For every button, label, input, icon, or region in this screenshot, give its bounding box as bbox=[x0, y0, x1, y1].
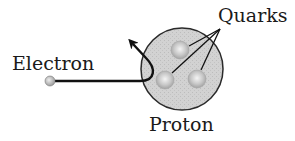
electron-label: Electron bbox=[12, 52, 94, 74]
electron-proton-scattering-diagram: Electron Quarks Proton bbox=[0, 0, 295, 141]
electron-sphere bbox=[45, 76, 55, 86]
quark-bottom-right bbox=[188, 70, 206, 88]
quark-bottom-left bbox=[156, 71, 174, 89]
proton-label: Proton bbox=[149, 113, 214, 135]
quark-top bbox=[171, 41, 189, 59]
quarks-label: Quarks bbox=[218, 4, 288, 26]
